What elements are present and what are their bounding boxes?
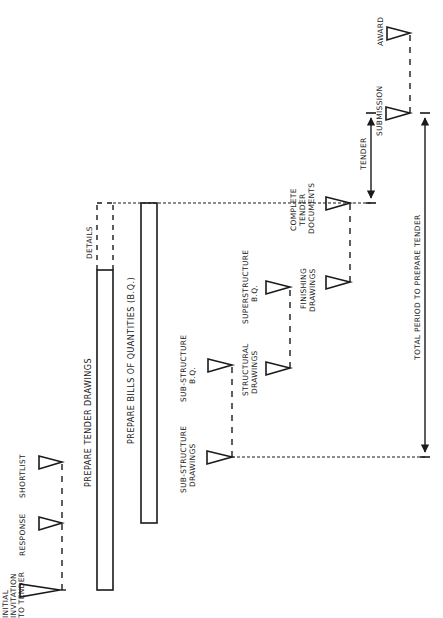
triangle-milestone-icon [39, 456, 62, 469]
milestone-label: DRAWINGS [250, 350, 259, 394]
span-tender: TENDER [359, 113, 376, 203]
milestone-label: SUPERSTRUCTURE [241, 250, 250, 324]
bar-prepare-bills-of-quantities: PREPARE BILLS OF QUANTITIES (B.Q.) [127, 203, 157, 523]
triangle-milestone-icon [208, 359, 232, 372]
milestone-label: RESPONSE [18, 513, 27, 556]
triangle-milestone-icon [266, 281, 290, 294]
milestone-substructure-bq: SUB-STRUCTURE B.Q. [179, 332, 232, 402]
milestone-label: B.Q. [188, 367, 197, 384]
svg-text:SUB-STRUCTURE DRAWINGS: SUB-STRUCTURE DRAWINGS [179, 423, 197, 493]
milestone-label: B.Q. [250, 285, 259, 302]
milestone-label: SUB-STRUCTURE [179, 335, 188, 402]
svg-text:SUPERSTRUCTURE B.Q.: SUPERSTRUCTURE B.Q. [241, 247, 259, 324]
milestone-award: AWARD [376, 17, 410, 46]
bar-label: PREPARE TENDER DRAWINGS [84, 358, 93, 487]
svg-text:STRUCTURAL DRAWINGS: STRUCTURAL DRAWINGS [241, 341, 259, 396]
triangle-milestone-icon [386, 107, 410, 120]
span-label: TOTAL PERIOD TO PREPARE TENDER [413, 215, 422, 361]
milestone-complete-tender-documents: COMPLETE TENDER DOCUMENTS [289, 183, 350, 234]
details-dashed-extension [97, 203, 113, 270]
milestone-finishing-drawings: FINISHING DRAWINGS [299, 265, 350, 312]
tender-timeline-diagram: INITIAL INVITATION TO TENDER RESPONSE SH… [0, 0, 443, 618]
milestone-label: COMPLETE [289, 188, 298, 231]
milestone-superstructure-bq: SUPERSTRUCTURE B.Q. [241, 247, 290, 324]
triangle-milestone-icon [39, 517, 62, 530]
svg-text:FINISHING DRAWINGS: FINISHING DRAWINGS [299, 265, 317, 312]
milestone-substructure-drawings: SUB-STRUCTURE DRAWINGS [179, 423, 232, 493]
span-label: TENDER [359, 138, 368, 171]
milestone-response: RESPONSE [18, 513, 62, 556]
milestone-label: SUBMISSION [375, 86, 384, 136]
milestone-label: DOCUMENTS [307, 183, 316, 234]
milestone-label: FINISHING [299, 268, 308, 309]
milestone-label: SUB-STRUCTURE [179, 426, 188, 493]
milestone-shortlist: SHORTLIST [18, 454, 62, 498]
activity-bar [97, 270, 113, 590]
milestone-submission: SUBMISSION [375, 86, 410, 136]
milestone-label: AWARD [376, 17, 385, 46]
milestone-label: SHORTLIST [18, 454, 27, 498]
milestone-structural-drawings: STRUCTURAL DRAWINGS [241, 341, 290, 396]
svg-text:AWARD: AWARD [376, 17, 385, 46]
triangle-milestone-icon [326, 276, 350, 289]
svg-text:COMPLETE TENDER DO: COMPLETE TENDER DOCUMENTS [289, 183, 316, 234]
milestone-label: STRUCTURAL [241, 343, 250, 396]
triangle-milestone-icon [207, 451, 232, 464]
bar-label: PREPARE BILLS OF QUANTITIES (B.Q.) [127, 277, 136, 444]
svg-text:INITIAL INVITATION: INITIAL INVITATION TO TENDER [1, 570, 26, 618]
milestone-label: TO TENDER [17, 572, 26, 618]
milestone-label: DRAWINGS [188, 443, 197, 487]
milestone-label: TENDER [298, 194, 307, 227]
triangle-milestone-icon [387, 27, 410, 40]
triangle-milestone-icon [20, 584, 60, 597]
milestone-initial-invitation: INITIAL INVITATION TO TENDER [1, 570, 60, 618]
span-total-period: TOTAL PERIOD TO PREPARE TENDER [413, 113, 430, 457]
triangle-milestone-icon [266, 362, 290, 375]
svg-text:SUBMISSION: SUBMISSION [375, 86, 384, 136]
svg-text:SUB-STRUCTURE B.Q.: SUB-STRUCTURE B.Q. [179, 332, 197, 402]
svg-text:SHORTLIST: SHORTLIST [18, 454, 27, 498]
activity-bar [141, 203, 157, 523]
svg-text:RESPONSE: RESPONSE [18, 513, 27, 556]
milestone-label: DRAWINGS [308, 268, 317, 312]
bar-prepare-tender-drawings: PREPARE TENDER DRAWINGS DETAILS [84, 203, 113, 590]
details-label: DETAILS [85, 226, 94, 259]
